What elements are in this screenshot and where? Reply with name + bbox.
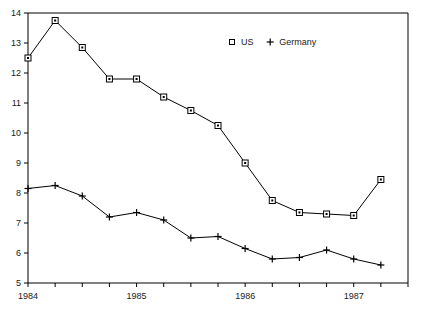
y-axis-tick-label: 7 xyxy=(16,218,21,228)
y-axis-tick-label: 8 xyxy=(16,188,21,198)
plus-icon xyxy=(267,39,274,46)
y-axis-tick-label: 9 xyxy=(16,158,21,168)
legend-item-us: US xyxy=(230,37,254,47)
plot-frame xyxy=(28,13,408,283)
y-axis-tick-label: 12 xyxy=(11,68,21,78)
line-chart: 5678910111213141984198519861987USGermany xyxy=(0,0,421,309)
legend-item-germany: Germany xyxy=(267,37,317,47)
series-us xyxy=(25,18,384,219)
x-axis-tick-label: 1987 xyxy=(344,291,364,301)
y-axis-tick-label: 5 xyxy=(16,278,21,288)
x-axis-tick-label: 1985 xyxy=(127,291,147,301)
y-axis-tick-label: 6 xyxy=(16,248,21,258)
x-axis-tick-label: 1984 xyxy=(18,291,38,301)
y-axis: 567891011121314 xyxy=(11,8,28,288)
y-axis-tick-label: 14 xyxy=(11,8,21,18)
x-axis: 1984198519861987 xyxy=(18,283,408,301)
y-axis-tick-label: 11 xyxy=(12,98,21,108)
legend-label: US xyxy=(241,37,254,47)
y-axis-tick-label: 13 xyxy=(11,38,21,48)
open-square-icon xyxy=(230,40,235,45)
legend-label: Germany xyxy=(279,37,317,47)
legend: USGermany xyxy=(230,37,317,47)
y-axis-tick-label: 10 xyxy=(11,128,21,138)
series-germany xyxy=(25,182,385,269)
x-axis-tick-label: 1986 xyxy=(235,291,255,301)
chart-container: 5678910111213141984198519861987USGermany xyxy=(0,0,421,309)
